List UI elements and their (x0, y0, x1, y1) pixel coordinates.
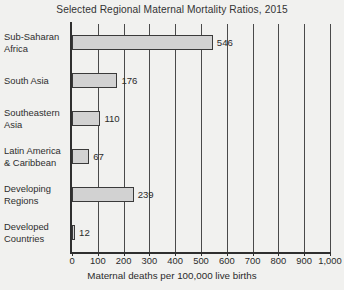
tick-label: 600 (219, 255, 235, 267)
bar-value-label: 110 (100, 111, 119, 126)
bar-row: DevelopedCountries12 (0, 214, 344, 252)
category-label: Sub-SaharanAfrica (4, 24, 68, 62)
category-label-line: Developed (4, 221, 68, 233)
category-label-line: Southeastern (4, 107, 68, 119)
bar-track: 110 (72, 100, 330, 138)
bar[interactable] (72, 149, 89, 164)
bar[interactable] (72, 73, 117, 88)
bar-track: 239 (72, 176, 330, 214)
bar[interactable] (72, 35, 213, 50)
category-label: Latin America& Caribbean (4, 138, 68, 176)
bar-row: Sub-SaharanAfrica546 (0, 24, 344, 62)
bar-track: 67 (72, 138, 330, 176)
tick-label: 0 (69, 255, 74, 267)
tick-label: 100 (90, 255, 106, 267)
bar-value-label: 12 (75, 225, 90, 240)
bar-row: South Asia176 (0, 62, 344, 100)
bar-track: 12 (72, 214, 330, 252)
x-axis-title: Maternal deaths per 100,000 live births (0, 270, 344, 281)
bar-track: 546 (72, 24, 330, 62)
bar-value-label: 546 (213, 35, 233, 50)
category-label-line: Countries (4, 233, 68, 245)
category-label-line: South Asia (4, 75, 68, 87)
category-label-line: Latin America (4, 145, 68, 157)
x-axis-tick-labels: 01002003004005006007008009001,000 (0, 255, 344, 269)
bar-value-label: 176 (117, 73, 137, 88)
bar-rows: Sub-SaharanAfrica546South Asia176Southea… (0, 24, 344, 252)
category-label-line: Sub-Saharan (4, 31, 68, 43)
category-label: DevelopedCountries (4, 214, 68, 252)
category-label: SoutheasternAsia (4, 100, 68, 138)
tick-label: 700 (245, 255, 261, 267)
category-label-line: & Caribbean (4, 157, 68, 169)
maternal-mortality-bar-chart: Selected Regional Maternal Mortality Rat… (0, 0, 344, 290)
category-label-line: Regions (4, 195, 68, 207)
category-label: DevelopingRegions (4, 176, 68, 214)
bar[interactable] (72, 187, 134, 202)
tick-label: 400 (167, 255, 183, 267)
bar-value-label: 67 (89, 149, 104, 164)
category-label-line: Developing (4, 183, 68, 195)
category-label: South Asia (4, 62, 68, 100)
bar-row: Latin America& Caribbean67 (0, 138, 344, 176)
bar-track: 176 (72, 62, 330, 100)
tick-label: 300 (142, 255, 158, 267)
tick-label: 500 (193, 255, 209, 267)
category-label-line: Africa (4, 43, 68, 55)
tick-label: 1,000 (318, 255, 341, 267)
tick-label: 800 (271, 255, 287, 267)
bar-value-label: 239 (134, 187, 154, 202)
bar[interactable] (72, 111, 100, 126)
bar-row: DevelopingRegions239 (0, 176, 344, 214)
chart-title: Selected Regional Maternal Mortality Rat… (0, 4, 344, 15)
tick-label: 900 (296, 255, 312, 267)
tick-label: 200 (116, 255, 132, 267)
category-label-line: Asia (4, 119, 68, 131)
bar-row: SoutheasternAsia110 (0, 100, 344, 138)
